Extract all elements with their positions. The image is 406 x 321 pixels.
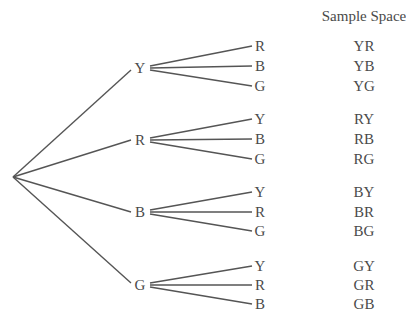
- node-Y: Y: [135, 61, 146, 76]
- leaf-B-Y: Y: [255, 185, 266, 200]
- outcome-YB: YB: [354, 59, 375, 74]
- outcome-RY: RY: [354, 112, 374, 127]
- outcome-BY: BY: [354, 185, 375, 200]
- outcome-BR: BR: [354, 205, 374, 220]
- leaf-G-Y: Y: [255, 259, 266, 274]
- outcome-BG: BG: [354, 224, 375, 239]
- node-G: G: [135, 278, 146, 293]
- leaf-R-G: G: [255, 152, 266, 167]
- node-B: B: [135, 205, 145, 220]
- tree-diagram: [0, 0, 406, 321]
- leaf-Y-G: G: [255, 79, 266, 94]
- leaf-B-R: R: [255, 205, 265, 220]
- node-R: R: [135, 133, 145, 148]
- outcome-YG: YG: [353, 79, 375, 94]
- outcome-GB: GB: [354, 297, 375, 312]
- edge-root-B: [13, 177, 131, 212]
- edge-root-R: [13, 140, 131, 177]
- leaf-Y-B: B: [255, 59, 265, 74]
- leaf-G-R: R: [255, 278, 265, 293]
- outcome-RG: RG: [354, 152, 375, 167]
- leaf-G-B: B: [255, 297, 265, 312]
- leaf-Y-R: R: [255, 39, 265, 54]
- leaf-R-Y: Y: [255, 112, 266, 127]
- edge-root-Y: [13, 70, 131, 177]
- leaf-B-G: G: [255, 224, 266, 239]
- outcome-GR: GR: [354, 278, 375, 293]
- edge-root-G: [13, 177, 131, 283]
- tree-edges: [13, 46, 252, 304]
- outcome-YR: YR: [354, 39, 375, 54]
- leaf-R-B: B: [255, 132, 265, 147]
- outcome-GY: GY: [353, 259, 375, 274]
- outcome-RB: RB: [354, 132, 374, 147]
